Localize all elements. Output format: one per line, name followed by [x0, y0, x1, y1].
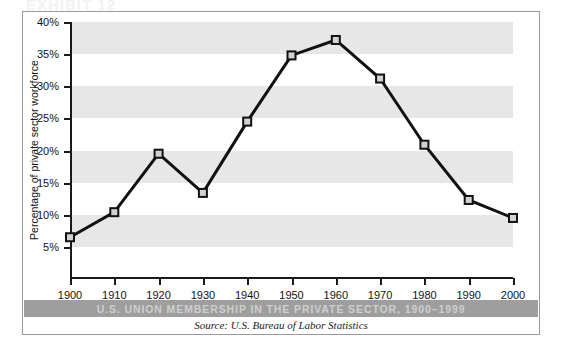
background-band: [70, 86, 513, 118]
y-axis-tick-label: 10%: [37, 209, 59, 221]
background-band: [70, 215, 513, 247]
data-point-marker: [376, 75, 384, 83]
caption-label: U.S. UNION MEMBERSHIP IN THE PRIVATE SEC…: [97, 303, 466, 315]
x-axis-tick: [336, 278, 338, 285]
y-axis-tick-label: 5%: [43, 241, 59, 253]
y-axis-tick-label: 35%: [37, 48, 59, 60]
y-axis-tick-label: 30%: [37, 80, 59, 92]
data-point-marker: [420, 141, 428, 149]
data-point-marker: [465, 196, 473, 204]
source-note: Source: U.S. Bureau of Labor Statistics: [24, 319, 538, 331]
x-axis-tick: [513, 278, 515, 285]
x-axis-tick: [292, 278, 294, 285]
series-polyline: [70, 40, 513, 237]
x-axis-tick: [247, 278, 249, 285]
x-axis-tick: [469, 278, 471, 285]
y-axis-tick: [64, 247, 71, 249]
figure-frame: Percentage of private sector workforce 5…: [22, 11, 540, 335]
x-axis-tick: [424, 278, 426, 285]
data-point-marker: [243, 118, 251, 126]
y-axis-tick: [64, 183, 71, 185]
caption-bar: U.S. UNION MEMBERSHIP IN THE PRIVATE SEC…: [24, 300, 538, 317]
y-axis-tick-label: 20%: [37, 145, 59, 157]
background-band: [70, 22, 513, 54]
x-axis-tick: [203, 278, 205, 285]
y-axis-tick-label: 40%: [37, 16, 59, 28]
x-axis-tick: [114, 278, 116, 285]
x-axis-tick: [159, 278, 161, 285]
y-axis-tick: [64, 54, 71, 56]
data-point-marker: [199, 189, 207, 197]
x-axis-tick: [380, 278, 382, 285]
y-axis-tick: [64, 22, 71, 24]
x-axis-tick: [70, 278, 72, 285]
y-axis-tick: [64, 151, 71, 153]
y-axis-tick-label: 25%: [37, 112, 59, 124]
y-axis-tick: [64, 86, 71, 88]
y-axis-tick-label: 15%: [37, 177, 59, 189]
plot-area: 5%10%15%20%25%30%35%40% 1900191019201930…: [70, 22, 513, 279]
y-axis-tick: [64, 118, 71, 120]
background-band: [70, 151, 513, 183]
y-axis-tick: [64, 215, 71, 217]
